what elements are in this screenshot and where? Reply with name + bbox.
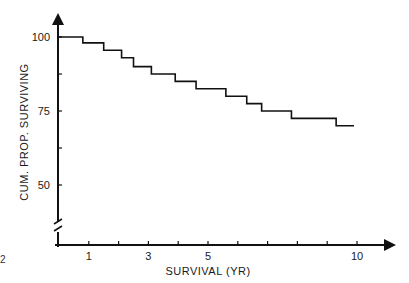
axis-break-icon	[54, 219, 62, 231]
y-tick-label: 100	[32, 31, 50, 43]
survival-step-curve	[59, 37, 354, 126]
x-tick-label: 1	[86, 250, 92, 262]
x-tick-label: 10	[351, 250, 363, 262]
x-axis-arrow-icon	[384, 239, 396, 251]
x-axis	[55, 239, 396, 251]
survival-chart: 1007550 13510 CUM. PROP. SURVIVING SURVI…	[0, 0, 409, 283]
x-axis-title: SURVIVAL (YR)	[165, 265, 250, 277]
x-tick-label: 3	[145, 250, 151, 262]
figure-corner-label: 2	[0, 254, 6, 265]
y-tick-label: 50	[38, 179, 50, 191]
y-axis-arrow-icon	[52, 13, 64, 25]
y-tick-label: 75	[38, 105, 50, 117]
y-axis	[52, 13, 64, 247]
x-tick-label: 5	[205, 250, 211, 262]
y-axis-title: CUM. PROP. SURVIVING	[18, 63, 30, 200]
